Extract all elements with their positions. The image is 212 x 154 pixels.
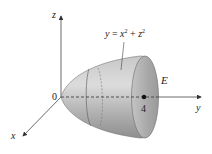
surface-equation: y = x2 + z2 bbox=[104, 28, 145, 39]
point-y4 bbox=[142, 95, 146, 99]
origin-label: 0 bbox=[52, 91, 57, 102]
y-axis-label: y bbox=[195, 102, 201, 113]
region-label-e: E bbox=[160, 74, 168, 86]
z-axis-label: z bbox=[51, 9, 56, 20]
x-axis-label: x bbox=[10, 130, 16, 141]
x-axis bbox=[23, 97, 61, 136]
paraboloid-diagram: z y x 0 4 E y = x2 + z2 bbox=[0, 0, 212, 154]
point-y4-label: 4 bbox=[141, 103, 146, 114]
